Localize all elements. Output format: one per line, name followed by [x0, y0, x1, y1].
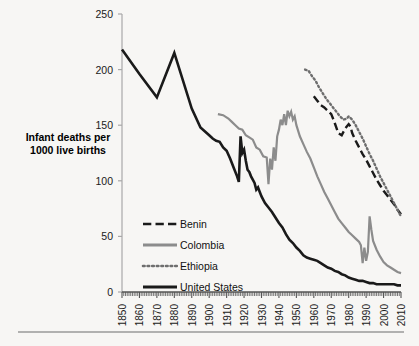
x-tick-label-1990: 1990 — [361, 304, 372, 327]
x-tick-label-1950: 1950 — [291, 304, 302, 327]
y-tick-label-0: 0 — [107, 286, 113, 298]
infant-mortality-chart: Infant deaths per 1000 live births 05010… — [0, 0, 419, 346]
x-tick-label-1980: 1980 — [344, 304, 355, 327]
x-tick-label-1870: 1870 — [152, 304, 163, 327]
x-tick-label-1900: 1900 — [204, 304, 215, 327]
legend-label: Ethiopia — [180, 260, 218, 272]
x-tick-label-2000: 2000 — [379, 304, 390, 327]
x-tick-label-1970: 1970 — [326, 304, 337, 327]
x-tick-label-1880: 1880 — [169, 304, 180, 327]
y-tick-label-50: 50 — [101, 230, 113, 242]
y-tick-label-100: 100 — [95, 175, 113, 187]
x-tick-label-1940: 1940 — [274, 304, 285, 327]
x-tick-label-1850: 1850 — [117, 304, 128, 327]
legend-label: United States — [180, 281, 243, 293]
x-tick-label-1930: 1930 — [257, 304, 268, 327]
y-axis-title: Infant deaths per 1000 live births — [26, 131, 111, 156]
y-tick-label-150: 150 — [95, 119, 113, 131]
y-axis-title-line1: Infant deaths per — [26, 131, 111, 143]
x-tick-label-1890: 1890 — [187, 304, 198, 327]
chart-canvas: Infant deaths per 1000 live births 05010… — [0, 0, 419, 346]
x-tick-label-2010: 2010 — [396, 304, 407, 327]
x-tick-label-1960: 1960 — [309, 304, 320, 327]
y-axis-title-line2: 1000 live births — [30, 144, 106, 156]
x-tick-label-1860: 1860 — [134, 304, 145, 327]
y-tick-label-250: 250 — [95, 8, 113, 20]
y-tick-label-200: 200 — [95, 64, 113, 76]
legend-label: Colombia — [180, 239, 225, 251]
x-tick-label-1920: 1920 — [239, 304, 250, 327]
legend-label: Benin — [180, 218, 207, 230]
x-tick-label-1910: 1910 — [222, 304, 233, 327]
